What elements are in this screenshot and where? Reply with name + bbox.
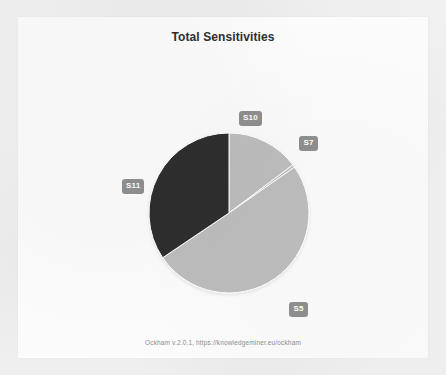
pie-slice-label-s10[interactable]: S10 <box>239 111 262 126</box>
pie-slice-label-s11[interactable]: S11 <box>122 179 144 194</box>
page-background: Total Sensitivities S10 S7 S11 S5 Ockham… <box>0 0 446 375</box>
pie-chart: S10 S7 S11 S5 <box>18 17 428 358</box>
pie-slice-label-s5[interactable]: S5 <box>289 302 308 317</box>
pie-slice-label-s7[interactable]: S7 <box>299 136 318 151</box>
chart-footer-attribution: Ockham v.2.0.1, https://knowledgeminer.e… <box>18 339 428 346</box>
chart-card: Total Sensitivities S10 S7 S11 S5 Ockham… <box>18 17 428 358</box>
pie-slice-group <box>149 133 309 293</box>
pie-chart-svg <box>18 17 428 358</box>
